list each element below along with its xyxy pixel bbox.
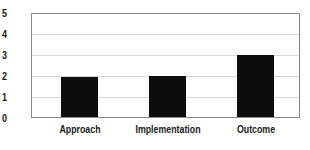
y-axis-tick-label: 5	[0, 8, 7, 19]
y-axis-tick-label: 3	[0, 50, 7, 61]
bar-outcome	[237, 55, 274, 117]
gridline-4	[32, 34, 299, 35]
plot-area	[31, 13, 300, 118]
x-axis-label-outcome: Outcome	[228, 124, 284, 135]
x-axis-label-implementation: Implementation	[128, 124, 208, 135]
x-axis-label-approach: Approach	[52, 124, 108, 135]
gridline-0-baseline	[32, 117, 299, 118]
bar-approach	[61, 77, 98, 117]
y-axis-tick-label: 1	[0, 92, 7, 103]
y-axis-tick-label: 4	[0, 29, 7, 40]
y-axis-tick-label: 2	[0, 71, 7, 82]
bar-implementation	[149, 76, 186, 117]
bar-chart: 5 4 3 2 1 0 Approach Implementation Outc…	[0, 0, 310, 150]
y-axis-tick-label: 0	[0, 113, 7, 124]
